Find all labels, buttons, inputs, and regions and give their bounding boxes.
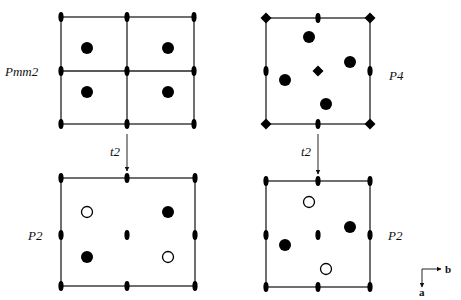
fourfold-axis-icon bbox=[313, 66, 324, 77]
twofold-axis-icon bbox=[315, 176, 320, 186]
space-group-label: P2 bbox=[387, 228, 403, 243]
twofold-axis-icon bbox=[367, 282, 372, 292]
twofold-axis-icon bbox=[315, 119, 320, 129]
twofold-axis-icon bbox=[263, 230, 268, 240]
figure-canvas: Pmm2P4P2P2 t2t2 b a bbox=[0, 0, 461, 300]
open-atom-icon bbox=[163, 252, 174, 263]
open-atom-icon bbox=[321, 264, 332, 275]
fourfold-axis-icon bbox=[365, 13, 376, 24]
twofold-axis-icon bbox=[367, 66, 372, 76]
twofold-axis-icon bbox=[124, 230, 129, 240]
twofold-axis-icon bbox=[367, 176, 372, 186]
twofold-axis-icon bbox=[367, 230, 372, 240]
filled-atom-icon bbox=[162, 206, 174, 218]
twofold-axis-icon bbox=[263, 66, 268, 76]
twofold-axis-icon bbox=[124, 173, 129, 183]
index-label: t2 bbox=[301, 144, 312, 159]
twofold-axis-icon bbox=[58, 230, 63, 240]
filled-atom-icon bbox=[344, 56, 356, 68]
filled-atom-icon bbox=[344, 221, 356, 233]
twofold-axis-icon bbox=[191, 119, 196, 129]
index-label: t2 bbox=[110, 144, 121, 159]
filled-atom-icon bbox=[162, 86, 174, 98]
b-axis-label: b bbox=[445, 263, 451, 275]
filled-atom-icon bbox=[279, 74, 291, 86]
twofold-axis-icon bbox=[58, 173, 63, 183]
twofold-axis-icon bbox=[192, 281, 197, 291]
twofold-axis-icon bbox=[263, 176, 268, 186]
filled-atom-icon bbox=[279, 239, 291, 251]
twofold-axis-icon bbox=[124, 66, 129, 76]
filled-atom-icon bbox=[303, 31, 315, 43]
space-group-label: Pmm2 bbox=[4, 64, 39, 79]
twofold-axis-icon bbox=[192, 230, 197, 240]
subgroup-diagram: Pmm2P4P2P2 t2t2 b a bbox=[0, 0, 461, 300]
panel-p2-left: P2 bbox=[27, 173, 198, 291]
twofold-axis-icon bbox=[191, 66, 196, 76]
open-atom-icon bbox=[304, 197, 315, 208]
filled-atom-icon bbox=[81, 42, 93, 54]
filled-atom-icon bbox=[162, 42, 174, 54]
twofold-axis-icon bbox=[58, 119, 63, 129]
filled-atom-icon bbox=[81, 86, 93, 98]
twofold-axis-icon bbox=[315, 13, 320, 23]
panel-p4: P4 bbox=[261, 13, 404, 130]
subgroup-arrow: t2 bbox=[301, 134, 318, 174]
twofold-axis-icon bbox=[315, 282, 320, 292]
twofold-axis-icon bbox=[124, 12, 129, 22]
axes-key: b a bbox=[419, 263, 451, 298]
twofold-axis-icon bbox=[192, 173, 197, 183]
space-group-label: P2 bbox=[27, 228, 43, 243]
twofold-axis-icon bbox=[315, 230, 320, 240]
subgroup-arrow: t2 bbox=[110, 134, 127, 171]
space-group-label: P4 bbox=[388, 68, 404, 83]
fourfold-axis-icon bbox=[261, 13, 272, 24]
a-axis-label: a bbox=[419, 286, 425, 298]
twofold-axis-icon bbox=[58, 66, 63, 76]
filled-atom-icon bbox=[81, 251, 93, 263]
twofold-axis-icon bbox=[58, 12, 63, 22]
panel-p2-right: P2 bbox=[263, 176, 403, 292]
fourfold-axis-icon bbox=[261, 119, 272, 130]
filled-atom-icon bbox=[320, 98, 332, 110]
twofold-axis-icon bbox=[124, 119, 129, 129]
panel-pmm2: Pmm2 bbox=[4, 12, 197, 129]
twofold-axis-icon bbox=[124, 281, 129, 291]
twofold-axis-icon bbox=[58, 281, 63, 291]
twofold-axis-icon bbox=[263, 282, 268, 292]
fourfold-axis-icon bbox=[365, 119, 376, 130]
open-atom-icon bbox=[82, 207, 93, 218]
twofold-axis-icon bbox=[191, 12, 196, 22]
